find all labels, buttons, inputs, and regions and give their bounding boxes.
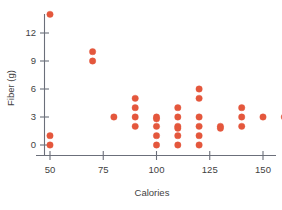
scatterplot-figure: 036912 5075100125150 Calories Fiber (g) [0, 0, 282, 210]
data-point [175, 142, 181, 148]
x-tick-label: 100 [149, 164, 165, 175]
data-point [217, 125, 223, 131]
data-point [239, 104, 245, 110]
y-tick-label: 12 [25, 27, 36, 38]
data-point [153, 132, 159, 138]
x-tick-label: 150 [255, 164, 271, 175]
data-point [132, 123, 138, 129]
data-point [239, 123, 245, 129]
x-axis-title: Calories [135, 187, 170, 198]
data-point [153, 142, 159, 148]
data-point [153, 123, 159, 129]
data-point [175, 104, 181, 110]
data-points-group [47, 11, 282, 148]
y-axis-ticks: 036912 [25, 27, 49, 150]
y-tick-label: 6 [31, 83, 36, 94]
data-point [196, 142, 202, 148]
data-point [175, 114, 181, 120]
y-tick-label: 9 [31, 55, 36, 66]
data-point [196, 114, 202, 120]
data-point [111, 114, 117, 120]
y-tick-label: 3 [31, 111, 36, 122]
data-point [153, 116, 159, 122]
data-point [47, 132, 53, 138]
y-tick-label: 0 [31, 139, 36, 150]
data-point [89, 58, 95, 64]
data-point [132, 114, 138, 120]
data-point [260, 114, 266, 120]
data-point [132, 95, 138, 101]
data-point [47, 142, 53, 148]
data-point [196, 123, 202, 129]
x-axis-ticks: 5075100125150 [45, 151, 271, 175]
data-point [175, 132, 181, 138]
y-axis-title: Fiber (g) [5, 70, 16, 106]
data-point [281, 114, 282, 120]
data-point [239, 114, 245, 120]
data-point [89, 48, 95, 54]
data-point [47, 11, 53, 17]
x-tick-label: 50 [45, 164, 56, 175]
x-tick-label: 125 [202, 164, 218, 175]
x-tick-label: 75 [98, 164, 109, 175]
data-point [196, 86, 202, 92]
data-point [196, 132, 202, 138]
data-point [132, 104, 138, 110]
data-point [175, 125, 181, 131]
data-point [196, 95, 202, 101]
plot-area: 036912 5075100125150 Calories Fiber (g) [0, 0, 282, 210]
